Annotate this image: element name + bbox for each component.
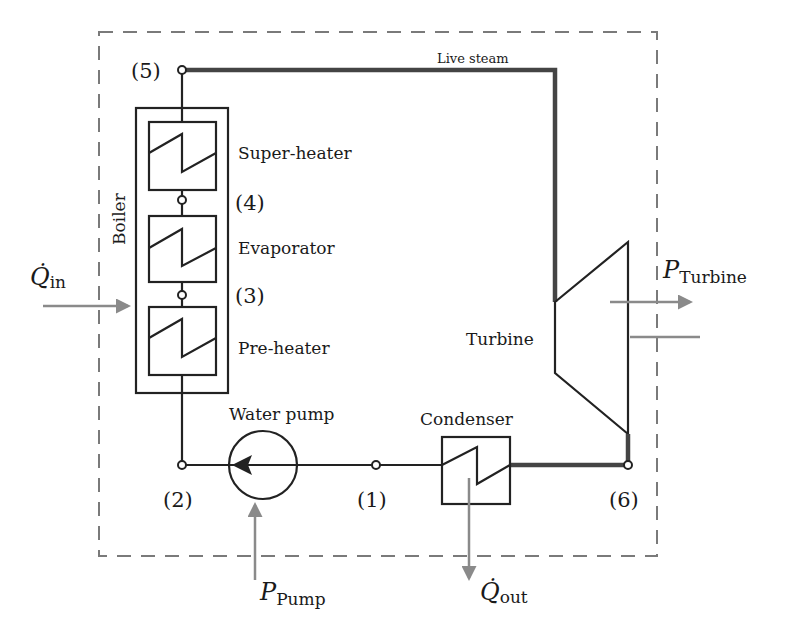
water-pump-label: Water pump xyxy=(229,404,335,424)
turbine-label: Turbine xyxy=(466,329,534,349)
node-6 xyxy=(624,461,632,469)
condenser-label: Condenser xyxy=(420,409,514,429)
node-1-label: (1) xyxy=(357,488,387,512)
live-steam-pipe xyxy=(182,70,555,302)
evaporator-label: Evaporator xyxy=(238,238,336,258)
node-6-label: (6) xyxy=(609,488,639,512)
super-heater-label: Super-heater xyxy=(238,143,352,163)
p-pump-label: PPump xyxy=(259,578,326,609)
node-5 xyxy=(178,66,186,74)
turbine[interactable] xyxy=(555,242,628,434)
live-steam-label: Live steam xyxy=(437,51,509,66)
node-4-label: (4) xyxy=(235,191,265,215)
node-3-label: (3) xyxy=(235,284,265,308)
pre-heater-label: Pre-heater xyxy=(238,338,330,358)
boiler-label: Boiler xyxy=(109,192,129,245)
node-3 xyxy=(178,291,186,299)
q-in-label: Q̇in xyxy=(30,263,66,292)
node-4 xyxy=(178,196,186,204)
node-2-label: (2) xyxy=(163,488,193,512)
node-5-label: (5) xyxy=(131,59,161,83)
p-turbine-label: PTurbine xyxy=(662,256,747,287)
node-1 xyxy=(372,461,380,469)
q-out-label: Q̇out xyxy=(480,578,528,607)
node-2 xyxy=(178,461,186,469)
